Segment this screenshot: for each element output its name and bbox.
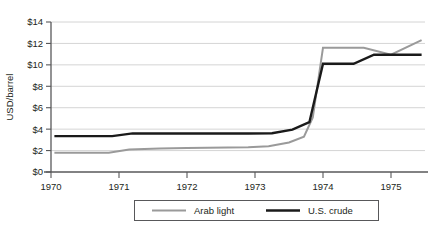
legend-label: Arab light: [194, 205, 234, 216]
chart-legend: Arab lightU.S. crude: [135, 201, 379, 221]
oil-price-chart: $0$2$4$6$8$10$12$14 19701971197219731974…: [0, 0, 442, 231]
y-axis-tick-label: $4: [32, 124, 43, 135]
y-axis-tick-label: $2: [32, 145, 43, 156]
y-axis-title: USD/barrel: [4, 74, 15, 121]
x-axis-tick-label: 1970: [40, 181, 61, 192]
chart-background: [0, 0, 442, 231]
legend-label: U.S. crude: [308, 205, 353, 216]
y-axis-tick-label: $0: [32, 166, 43, 177]
y-axis-tick-label: $6: [32, 102, 43, 113]
y-axis-title-text: USD/barrel: [4, 74, 15, 121]
x-axis-tick-label: 1973: [244, 181, 265, 192]
x-axis-tick-label: 1975: [380, 181, 401, 192]
y-axis-tick-label: $8: [32, 81, 43, 92]
x-axis-tick-label: 1971: [108, 181, 129, 192]
y-axis-tick-label: $14: [27, 16, 43, 27]
y-axis-tick-label: $12: [27, 38, 43, 49]
x-axis-tick-label: 1972: [176, 181, 197, 192]
y-axis-tick-label: $10: [27, 59, 43, 70]
chart-canvas: $0$2$4$6$8$10$12$14 19701971197219731974…: [0, 0, 442, 231]
x-axis-tick-label: 1974: [312, 181, 333, 192]
